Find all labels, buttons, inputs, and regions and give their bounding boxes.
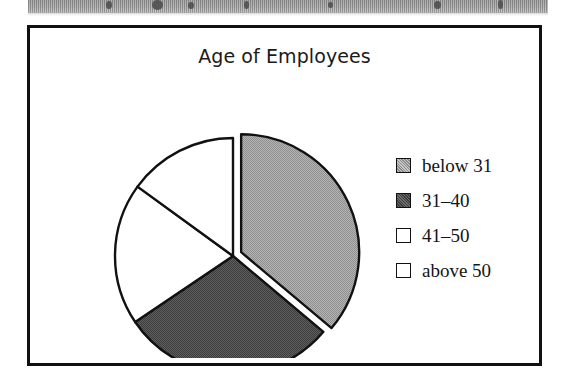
legend-label-41-50: 41–50 [422,226,470,245]
legend-item-above-50[interactable]: above 50 [396,253,546,288]
pie-chart [78,88,368,358]
legend-item-41-50[interactable]: 41–50 [396,218,546,253]
pie-chart-svg [78,88,368,358]
chart-frame: Age of Employees [27,25,542,366]
legend-item-below-31[interactable]: below 31 [396,148,546,183]
scan-artifact-band [28,0,548,13]
pie-slice-group [115,134,359,358]
legend-label-above-50: above 50 [422,261,491,280]
legend-swatch-41-50 [396,228,411,243]
legend-swatch-above-50 [396,263,411,278]
chart-legend: below 31 31–40 41–50 above 50 [396,148,546,288]
legend-swatch-31-40 [396,193,411,208]
page-canvas: Age of Employees [0,0,575,391]
legend-label-below-31: below 31 [422,156,492,175]
chart-title: Age of Employees [30,45,539,67]
legend-label-31-40: 31–40 [422,191,470,210]
legend-item-31-40[interactable]: 31–40 [396,183,546,218]
legend-swatch-below-31 [396,158,411,173]
